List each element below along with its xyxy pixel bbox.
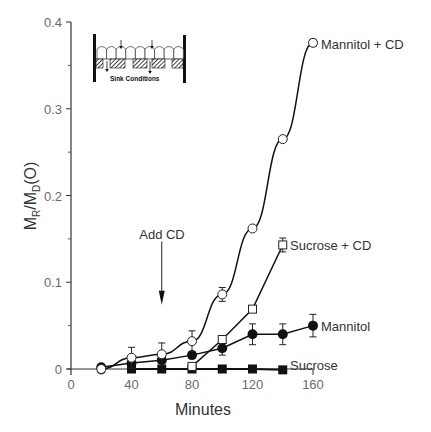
label-mannitol: Mannitol [321, 319, 370, 334]
inset-schematic: Sink Conditions [93, 34, 186, 83]
series-mannitol-cd [97, 38, 318, 373]
series-mannitol [96, 314, 318, 372]
filled-circle-marker [308, 321, 318, 331]
add-cd-annotation: Add CD [139, 227, 185, 305]
add-cd-label: Add CD [139, 227, 185, 242]
y-tick-label: 0.2 [44, 189, 62, 204]
open-circle-marker [218, 290, 227, 299]
label-sucrose: Sucrose [290, 358, 338, 373]
y-tick-label: 0.3 [44, 102, 62, 117]
line-chart: Sink Conditions 00.10.20.30.4 0408012016… [0, 0, 431, 432]
open-circle-marker [248, 224, 257, 233]
series-sucrose [127, 365, 287, 375]
x-axis-title: Minutes [175, 401, 231, 418]
y-axis-title: MR/MD(O) [22, 162, 42, 231]
y-tick-label: 0.4 [44, 15, 62, 30]
open-circle-marker [188, 337, 197, 346]
y-tick-label: 0 [55, 362, 62, 377]
label-sucrose-cd: Sucrose + CD [290, 238, 371, 253]
open-square-marker [279, 241, 287, 249]
chart: Sink Conditions 00.10.20.30.4 0408012016… [0, 0, 431, 432]
x-tick-label: 0 [67, 377, 74, 392]
open-circle-marker [309, 38, 318, 47]
series-labels: Mannitol + CD Sucrose + CD Mannitol Sucr… [290, 37, 404, 373]
open-circle-marker [157, 350, 166, 359]
filled-circle-marker [217, 343, 227, 353]
y-tick-label: 0.1 [44, 275, 62, 290]
filled-square-marker [248, 365, 257, 374]
filled-square-marker [278, 365, 287, 374]
open-square-marker [188, 362, 196, 370]
open-square-marker [249, 305, 257, 313]
filled-square-marker [218, 365, 227, 374]
filled-circle-marker [248, 329, 258, 339]
inset-label: Sink Conditions [110, 75, 160, 82]
open-square-marker [218, 336, 226, 344]
x-tick-label: 160 [302, 377, 324, 392]
x-tick-label: 80 [185, 377, 199, 392]
arrow-down-icon [159, 291, 165, 305]
label-mannitol-cd: Mannitol + CD [321, 37, 404, 52]
y-axis-ticks: 00.10.20.30.4 [44, 15, 71, 377]
x-tick-label: 120 [242, 377, 264, 392]
filled-circle-marker [278, 329, 288, 339]
open-circle-marker [127, 353, 136, 362]
svg-text:MR/MD(O): MR/MD(O) [22, 162, 42, 231]
open-circle-marker [278, 135, 287, 144]
data-series [96, 38, 318, 374]
series-sucrose-cd [188, 238, 287, 370]
x-tick-label: 40 [124, 377, 138, 392]
